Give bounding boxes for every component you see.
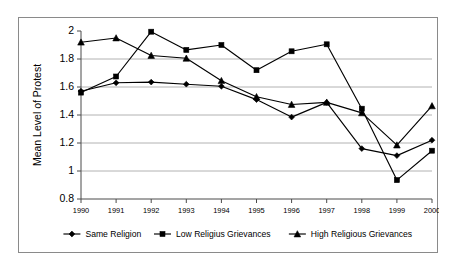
line-chart: 0.811.21.41.61.8219901991199219931994199… — [19, 18, 439, 254]
marker-diamond — [219, 83, 225, 89]
marker-square — [184, 47, 189, 52]
x-tick-label: 1996 — [283, 206, 299, 215]
marker-diamond — [429, 137, 435, 143]
marker-triangle — [218, 77, 225, 83]
marker-diamond — [148, 79, 154, 85]
x-tick-label: 1993 — [178, 206, 194, 215]
y-tick-label: 0.8 — [59, 192, 74, 204]
marker-square — [289, 49, 294, 54]
marker-triangle — [253, 94, 260, 100]
legend-label: Same Religion — [85, 229, 141, 239]
chart-legend: Same ReligionLow Religius GrievancesHigh… — [63, 229, 412, 239]
chart-plot-container: 0.811.21.41.61.8219901991199219931994199… — [19, 18, 439, 254]
marker-diamond — [69, 231, 75, 237]
series-low-religius-grievances — [79, 29, 435, 182]
x-tick-label: 1991 — [108, 206, 124, 215]
marker-square — [254, 68, 259, 73]
legend-label: Low Religius Grievances — [176, 229, 271, 239]
marker-square — [114, 74, 119, 79]
y-tick-label: 2 — [68, 24, 74, 36]
marker-square — [160, 232, 165, 237]
series-line — [81, 32, 432, 180]
y-tick-label: 1.6 — [59, 80, 74, 92]
x-tick-label: 1997 — [318, 206, 334, 215]
marker-square — [219, 43, 224, 48]
legend-label: High Religious Grievances — [311, 229, 412, 239]
marker-triangle — [429, 103, 436, 109]
chart-figure-frame: 0.811.21.41.61.8219901991199219931994199… — [18, 17, 438, 253]
y-tick-label: 1.8 — [59, 52, 74, 64]
x-tick-label: 1998 — [354, 206, 370, 215]
x-tick-label: 2000 — [424, 206, 439, 215]
marker-square — [149, 29, 154, 34]
marker-square — [79, 90, 84, 95]
legend-item[interactable]: Same Religion — [63, 229, 141, 239]
marker-square — [430, 148, 435, 153]
legend-item[interactable]: High Religious Grievances — [289, 229, 412, 239]
marker-square — [324, 42, 329, 47]
y-axis-title: Mean Level of Protest — [31, 64, 43, 166]
y-tick-label: 1 — [68, 164, 74, 176]
x-tick-label: 1990 — [73, 206, 89, 215]
series-high-religious-grievances — [78, 35, 436, 148]
marker-diamond — [394, 153, 400, 159]
marker-diamond — [113, 80, 119, 86]
y-tick-label: 1.2 — [59, 136, 74, 148]
marker-square — [394, 178, 399, 183]
series-same-religion — [78, 79, 435, 158]
legend-item[interactable]: Low Religius Grievances — [154, 229, 271, 239]
y-tick-label: 1.4 — [59, 108, 74, 120]
marker-diamond — [183, 81, 189, 87]
x-tick-label: 1995 — [248, 206, 264, 215]
x-tick-label: 1992 — [143, 206, 159, 215]
x-tick-label: 1994 — [213, 206, 229, 215]
x-tick-label: 1999 — [389, 206, 405, 215]
